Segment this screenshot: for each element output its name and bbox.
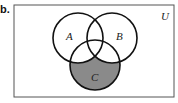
set-c-label: C (91, 71, 99, 83)
set-a-label: A (65, 30, 73, 42)
venn-diagram: A B C U (0, 0, 178, 103)
universe-label: U (161, 10, 170, 22)
set-b-label: B (116, 30, 123, 42)
